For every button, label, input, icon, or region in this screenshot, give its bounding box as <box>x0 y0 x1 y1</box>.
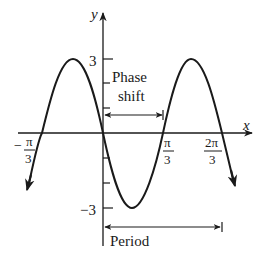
x-tick-label-pi-3: π 3 <box>163 135 174 167</box>
svg-text:3: 3 <box>209 152 216 167</box>
svg-text:−: − <box>14 138 22 153</box>
svg-text:3: 3 <box>25 151 32 166</box>
svg-text:π: π <box>164 135 171 150</box>
x-tick-label-neg-pi-3: − π 3 <box>14 134 35 166</box>
phase-shift-label-line1: Phase <box>112 69 147 85</box>
period-label: Period <box>110 233 150 249</box>
svg-text:π: π <box>26 134 33 149</box>
y-tick-label-3: 3 <box>89 53 97 69</box>
sine-graph: y x 3 −3 − π 3 π 3 2π 3 Phase shift Peri… <box>0 0 264 261</box>
x-axis-label: x <box>242 117 250 133</box>
x-tick-label-2pi-3: 2π 3 <box>204 135 222 167</box>
svg-text:3: 3 <box>164 152 171 167</box>
y-axis-label: y <box>89 6 98 22</box>
svg-text:2π: 2π <box>205 135 219 150</box>
phase-shift-label-line2: shift <box>118 88 146 104</box>
y-tick-label-neg3: −3 <box>80 202 96 218</box>
